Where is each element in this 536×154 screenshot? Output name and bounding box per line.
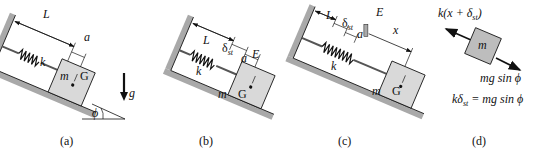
panel-a: L a k m G g ϕ (a): [0, 7, 135, 148]
caption-d: (d): [472, 134, 486, 148]
panel-d: k(x + δst) m mg sin ϕ kδst = mg sin ϕ (d…: [438, 6, 523, 148]
label-m: m: [478, 38, 487, 52]
label-k: k: [196, 64, 202, 78]
label-a: a: [84, 30, 90, 44]
label-equilibrium: kδst = mg sin ϕ: [452, 92, 523, 108]
label-E: E: [375, 5, 384, 19]
label-E: E: [251, 47, 260, 61]
label-L: L: [42, 7, 50, 21]
label-g: g: [129, 86, 135, 100]
label-a: a: [241, 51, 247, 65]
label-a: a: [357, 27, 363, 41]
label-m: m: [372, 84, 381, 98]
spring-force-arrow-icon: [446, 29, 471, 40]
label-m: m: [218, 87, 227, 101]
label-k: k: [331, 59, 337, 73]
label-delta-st: δst: [342, 16, 354, 32]
label-k: k: [40, 55, 46, 69]
label-x: x: [392, 23, 399, 37]
label-L: L: [325, 8, 333, 22]
spring: [188, 50, 216, 69]
label-G: G: [238, 87, 247, 101]
label-G: G: [392, 84, 401, 98]
diagram-canvas: L a k m G g ϕ (a): [0, 0, 536, 154]
label-spring-force: k(x + δst): [438, 6, 482, 22]
panel-b: L δst a E k m G (b): [163, 15, 297, 148]
label-weight-component: mg sin ϕ: [480, 71, 521, 85]
spring: [320, 42, 355, 64]
panel-c: L δst a E x k m G (c): [285, 0, 447, 148]
caption-a: (a): [60, 134, 73, 148]
caption-c: (c): [338, 134, 351, 148]
label-phi: ϕ: [92, 106, 98, 120]
spring: [17, 49, 41, 67]
label-L: L: [202, 33, 210, 47]
label-m: m: [60, 69, 69, 83]
weight-component-arrow-icon: [496, 58, 520, 70]
label-G: G: [80, 69, 89, 83]
caption-b: (b): [199, 134, 213, 148]
